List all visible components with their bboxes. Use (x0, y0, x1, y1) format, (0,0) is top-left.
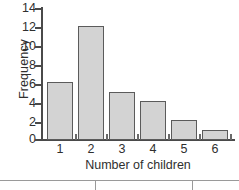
x-tick-mark-1 (75, 134, 77, 140)
y-tick-mark-0 (35, 139, 41, 141)
y-tick-mark-6 (35, 84, 41, 86)
y-tick-label-12: 12 (14, 22, 36, 32)
x-tick-label-2: 2 (78, 142, 104, 156)
y-tick-label-14: 14 (14, 3, 36, 13)
y-tick-label-2: 2 (14, 117, 36, 127)
x-tick-mark-3 (137, 134, 139, 140)
bar-6[interactable] (202, 130, 228, 140)
bar-2[interactable] (78, 26, 104, 140)
bar-3[interactable] (109, 92, 135, 140)
x-tick-mark-2 (106, 134, 108, 140)
y-tick-mark-10 (35, 46, 41, 48)
y-tick-mark-12 (35, 27, 41, 29)
y-tick-mark-4 (35, 103, 41, 105)
table-column-divider-2 (192, 181, 193, 190)
x-tick-mark-5 (199, 134, 201, 140)
y-tick-mark-2 (35, 122, 41, 124)
bar-1[interactable] (47, 82, 73, 140)
table-top-rule (0, 180, 239, 181)
y-tick-label-6: 6 (14, 79, 36, 89)
x-tick-label-3: 3 (109, 142, 135, 156)
histogram-figure: Frequency 14 12 10 8 6 4 2 0 1 2 3 4 5 6… (0, 0, 239, 190)
y-axis-tick-labels: 14 12 10 8 6 4 2 0 (12, 0, 36, 190)
y-tick-label-0: 0 (14, 134, 36, 144)
y-tick-label-8: 8 (14, 60, 36, 70)
y-axis-line (41, 7, 43, 140)
bar-5[interactable] (171, 120, 197, 140)
x-axis-label: Number of children (41, 158, 235, 172)
y-tick-label-4: 4 (14, 98, 36, 108)
y-tick-label-10: 10 (14, 41, 36, 51)
x-tick-label-5: 5 (171, 142, 197, 156)
x-tick-mark-4 (168, 134, 170, 140)
y-tick-mark-14 (35, 8, 41, 10)
y-tick-mark-8 (35, 65, 41, 67)
bar-4[interactable] (140, 101, 166, 140)
x-tick-mark-6 (230, 134, 232, 140)
x-tick-label-4: 4 (140, 142, 166, 156)
x-tick-label-1: 1 (47, 142, 73, 156)
x-tick-label-6: 6 (202, 142, 228, 156)
table-column-divider-1 (95, 181, 96, 190)
